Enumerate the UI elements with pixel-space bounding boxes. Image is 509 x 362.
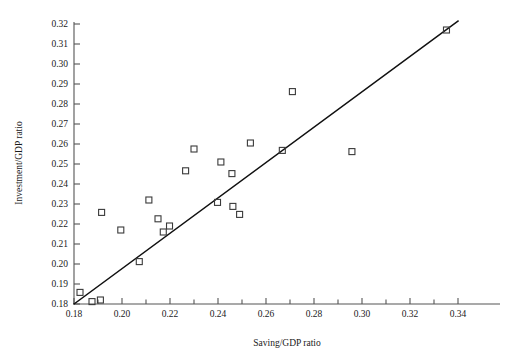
y-tick-label: 0.21 [51,239,68,249]
data-point-marker [247,140,253,146]
x-tick-label: 0.24 [210,309,227,319]
regression-line [74,21,458,304]
data-point-marker [99,209,105,215]
data-point-marker [136,259,142,265]
y-tick-label: 0.27 [51,119,68,129]
x-tick-label: 0.20 [114,309,131,319]
plot-canvas: 0.180.190.200.210.220.230.240.250.260.27… [0,0,509,362]
x-tick-label: 0.34 [450,309,467,319]
x-axis-tick-marks [74,298,458,304]
x-tick-label: 0.30 [354,309,371,319]
x-tick-label: 0.22 [162,309,179,319]
x-axis-tick-labels: 0.180.200.220.240.260.280.300.320.34 [66,309,467,319]
y-tick-label: 0.20 [51,259,68,269]
y-tick-label: 0.23 [51,199,68,209]
data-point-marker [230,203,236,209]
data-point-marker [118,227,124,233]
data-point-marker [237,211,243,217]
y-axis-tick-labels: 0.180.190.200.210.220.230.240.250.260.27… [51,19,68,309]
x-tick-label: 0.26 [258,309,275,319]
y-tick-label: 0.26 [51,139,68,149]
y-tick-label: 0.30 [51,59,68,69]
scatter-plot-figure: 0.180.190.200.210.220.230.240.250.260.27… [0,0,509,362]
y-tick-label: 0.25 [51,159,68,169]
y-tick-label: 0.22 [51,219,68,229]
data-point-marker [77,289,83,295]
x-tick-label: 0.28 [306,309,323,319]
data-point-marker [349,149,355,155]
y-axis-tick-marks [74,24,80,304]
data-point-marker [167,223,173,229]
data-point-marker [218,159,224,165]
y-tick-label: 0.24 [51,179,68,189]
y-axis-title: Investment/GDP ratio [14,121,24,205]
y-tick-label: 0.31 [51,39,68,49]
y-tick-label: 0.29 [51,79,68,89]
x-tick-label: 0.32 [402,309,419,319]
x-tick-label: 0.18 [66,309,83,319]
data-point-marker [191,146,197,152]
y-tick-label: 0.19 [51,279,68,289]
data-point-marker [183,168,189,174]
y-tick-label: 0.32 [51,19,68,29]
data-point-marker [289,89,295,95]
x-axis-title: Saving/GDP ratio [253,338,321,348]
y-tick-label: 0.18 [51,299,68,309]
y-tick-label: 0.28 [51,99,68,109]
data-point-marker [160,229,166,235]
data-point-marker [155,216,161,222]
data-point-marker [146,197,152,203]
data-point-marker [229,171,235,177]
